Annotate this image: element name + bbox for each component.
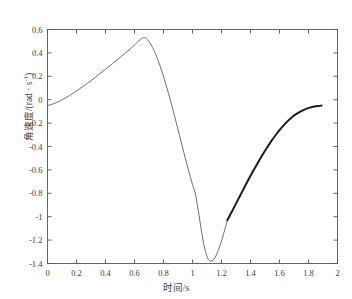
y-tick-label: 0	[8, 95, 43, 105]
x-tick-label: 2	[335, 268, 339, 278]
plot-area	[0, 0, 352, 299]
x-tick-label: 1.8	[303, 268, 314, 278]
data-series-line-0	[48, 38, 228, 262]
x-tick-label: 0.2	[71, 268, 82, 278]
y-tick-label: -0.4	[8, 142, 43, 152]
x-tick-label: 1.2	[216, 268, 227, 278]
y-tick-label: -1.4	[8, 259, 43, 269]
x-tick-label: 1.4	[245, 268, 256, 278]
x-tick-label: 1	[190, 268, 194, 278]
data-series-line-1	[227, 106, 321, 221]
plot-frame	[48, 30, 338, 264]
y-tick-label: 0.2	[8, 71, 43, 81]
y-tick-label: -0.8	[8, 188, 43, 198]
y-tick-label: -1	[8, 212, 43, 222]
x-tick-label: 0.8	[158, 268, 169, 278]
figure-root: 角速度/(rad · s-1) 时间/s 0.60.40.20-0.2-0.4-…	[0, 0, 352, 299]
x-tick-label: 0.4	[100, 268, 111, 278]
x-axis-label: 时间/s	[0, 280, 352, 294]
y-tick-label: -1.2	[8, 235, 43, 245]
x-tick-label: 0	[45, 268, 49, 278]
y-tick-label: -0.2	[8, 118, 43, 128]
y-tick-label: 0.4	[8, 48, 43, 58]
y-tick-label: -0.6	[8, 165, 43, 175]
x-tick-label: 0.6	[129, 268, 140, 278]
x-tick-label: 1.6	[274, 268, 285, 278]
y-axis-label-main: 角速度/(rad · s	[24, 82, 34, 142]
y-tick-label: 0.6	[8, 25, 43, 35]
chart-svg	[0, 0, 352, 299]
